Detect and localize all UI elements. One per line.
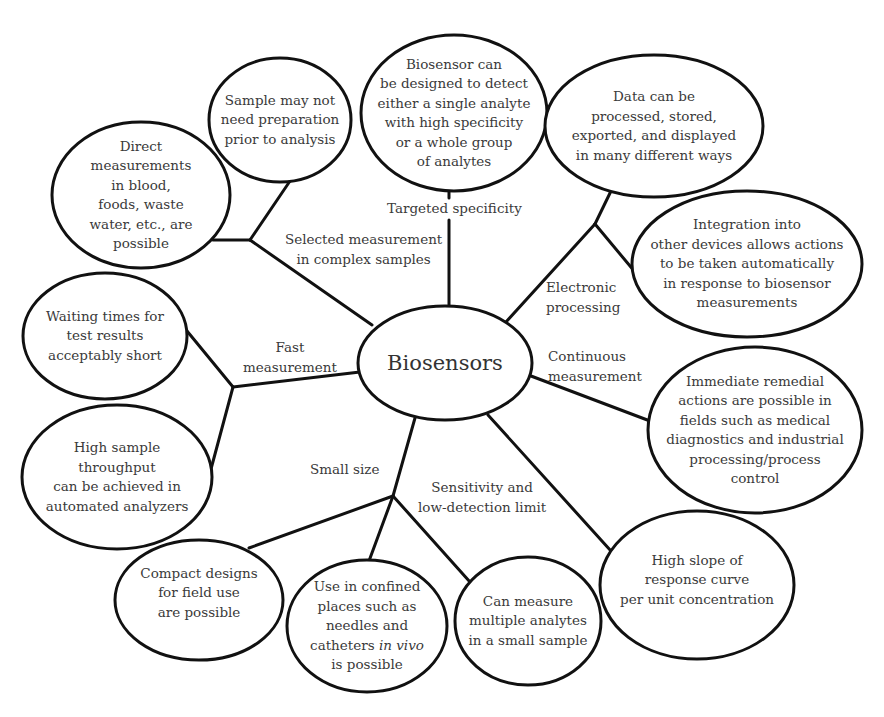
label-line: Selected measurement bbox=[285, 230, 442, 250]
node-text-line: of analytes bbox=[378, 152, 531, 172]
node-text-line: be designed to detect bbox=[378, 74, 531, 94]
connector-sample-prep bbox=[250, 181, 290, 240]
node-text-line: Can measure bbox=[468, 592, 587, 612]
node-text-line: for field use bbox=[140, 583, 257, 603]
node-biosensor-can: Biosensor can be designed to detect eith… bbox=[361, 35, 547, 191]
label-line: Small size bbox=[310, 460, 379, 480]
italic-term: in vivo bbox=[379, 637, 424, 653]
node-compact: Compact designs for field use are possib… bbox=[115, 540, 283, 660]
node-waiting: Waiting times for test results acceptabl… bbox=[23, 273, 187, 399]
text-fragment: catheters bbox=[310, 637, 379, 653]
node-text-line: throughput bbox=[46, 458, 189, 478]
node-text-line: in response to biosensor bbox=[650, 274, 843, 294]
node-text-line: acceptably short bbox=[46, 346, 164, 366]
center-label: Biosensors bbox=[387, 351, 503, 375]
node-text-line: can be achieved in bbox=[46, 477, 189, 497]
node-text-line: are possible bbox=[140, 603, 257, 623]
label-line: low-detection limit bbox=[418, 498, 546, 518]
node-text-line: other devices allows actions bbox=[650, 235, 843, 255]
node-text-line: response curve bbox=[620, 570, 774, 590]
branch-label-targeted: Targeted specificity bbox=[387, 199, 522, 219]
node-multiple: Can measure multiple analytes in a small… bbox=[455, 557, 601, 685]
node-data: Data can be processed, stored, exported,… bbox=[545, 55, 763, 197]
node-text-line: need preparation bbox=[221, 110, 339, 130]
label-line: Sensitivity and bbox=[418, 478, 546, 498]
node-text-line: measurements bbox=[650, 293, 843, 313]
node-text-line: to be taken automatically bbox=[650, 254, 843, 274]
node-text-line: foods, waste bbox=[90, 195, 193, 215]
node-text-line: possible bbox=[90, 234, 193, 254]
node-text-line: Immediate remedial bbox=[666, 372, 843, 392]
branch-label-electronic: Electronic processing bbox=[546, 278, 620, 317]
node-text-line: fields such as medical bbox=[666, 411, 843, 431]
node-text-line: Waiting times for bbox=[46, 307, 164, 327]
branch-label-fast: Fast measurement bbox=[243, 338, 337, 377]
node-confined: Use in confined places such as needles a… bbox=[287, 560, 447, 692]
node-text-line: measurements bbox=[90, 156, 193, 176]
label-line: measurement bbox=[548, 367, 642, 387]
node-direct: Direct measurements in blood, foods, was… bbox=[52, 122, 230, 268]
node-text-line: exported, and displayed bbox=[572, 126, 736, 146]
node-text-line: multiple analytes bbox=[468, 611, 587, 631]
node-text-line: water, etc., are bbox=[90, 215, 193, 235]
node-text-line: test results bbox=[46, 326, 164, 346]
connector-integration bbox=[595, 224, 635, 272]
node-text-line: High slope of bbox=[620, 551, 774, 571]
branch-label-small: Small size bbox=[310, 460, 379, 480]
label-line: Electronic bbox=[546, 278, 620, 298]
node-text-line: prior to analysis bbox=[221, 130, 339, 150]
node-immediate: Immediate remedial actions are possible … bbox=[648, 347, 862, 513]
node-text-line: processed, stored, bbox=[572, 107, 736, 127]
connector-throughput bbox=[211, 387, 233, 469]
node-text-line: is possible bbox=[310, 655, 424, 675]
node-text-line: with high specificity bbox=[378, 113, 531, 133]
node-text-line: places such as bbox=[310, 597, 424, 617]
node-text-line: Integration into bbox=[650, 215, 843, 235]
node-throughput: High sample throughput can be achieved i… bbox=[22, 405, 212, 549]
node-text-line: Data can be bbox=[572, 87, 736, 107]
branch-label-selected: Selected measurement in complex samples bbox=[285, 230, 442, 269]
node-text-line: actions are possible in bbox=[666, 391, 843, 411]
label-line: in complex samples bbox=[285, 250, 442, 270]
node-slope: High slope of response curve per unit co… bbox=[600, 511, 794, 659]
branch-label-sensitivity: Sensitivity and low-detection limit bbox=[418, 478, 546, 517]
node-text-line: Biosensor can bbox=[378, 55, 531, 75]
connector-small bbox=[393, 418, 415, 496]
node-text-line: processing/process bbox=[666, 450, 843, 470]
node-integration: Integration into other devices allows ac… bbox=[632, 191, 862, 337]
node-text-line: per unit concentration bbox=[620, 590, 774, 610]
node-sample-prep: Sample may not need preparation prior to… bbox=[209, 58, 351, 182]
node-text-line: Sample may not bbox=[221, 91, 339, 111]
node-text-line: in a small sample bbox=[468, 631, 587, 651]
node-text-line: catheters in vivo bbox=[310, 636, 424, 656]
label-line: Targeted specificity bbox=[387, 199, 522, 219]
branch-label-continuous: Continuous measurement bbox=[548, 347, 642, 386]
label-line: Continuous bbox=[548, 347, 642, 367]
node-text-line: or a whole group bbox=[378, 133, 531, 153]
node-text-line: in blood, bbox=[90, 176, 193, 196]
connector-waiting bbox=[187, 331, 233, 387]
center-node: Biosensors bbox=[358, 306, 532, 420]
node-text-line: either a single analyte bbox=[378, 94, 531, 114]
node-text-line: needles and bbox=[310, 616, 424, 636]
connector-confined bbox=[369, 496, 393, 561]
node-text-line: automated analyzers bbox=[46, 497, 189, 517]
node-text-line: Direct bbox=[90, 137, 193, 157]
label-line: Fast bbox=[243, 338, 337, 358]
node-text-line: diagnostics and industrial bbox=[666, 430, 843, 450]
node-text-line: Use in confined bbox=[310, 577, 424, 597]
node-text-line: in many different ways bbox=[572, 146, 736, 166]
node-text-line: High sample bbox=[46, 438, 189, 458]
node-text-line: Compact designs bbox=[140, 564, 257, 584]
label-line: processing bbox=[546, 298, 620, 318]
label-line: measurement bbox=[243, 358, 337, 378]
node-text-line: control bbox=[666, 469, 843, 489]
